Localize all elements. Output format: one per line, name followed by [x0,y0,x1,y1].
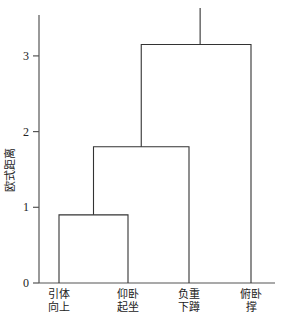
leaf-label: 起坐 [117,301,139,314]
y-tick-label: 3 [23,49,29,63]
y-tick-label: 0 [23,276,29,290]
y-axis-label: 欧式距离 [3,148,17,192]
leaf-label: 下蹲 [178,300,200,314]
y-ticks: 0123 [23,49,39,290]
dendrogram-link [59,215,128,283]
leaf-label: 俯卧 [240,287,262,301]
dendrogram-links [59,8,251,283]
leaf-label: 仰卧 [117,287,139,301]
dendrogram-link [141,45,251,283]
leaf-label: 撑 [246,300,257,314]
y-tick-label: 2 [23,125,29,139]
y-tick-label: 1 [23,200,29,214]
leaf-label: 负重 [178,287,200,301]
dendrogram-chart: 0123 引体向上仰卧起坐负重下蹲俯卧撑 欧式距离 [0,0,286,318]
leaf-labels: 引体向上仰卧起坐负重下蹲俯卧撑 [48,287,262,314]
leaf-label: 向上 [48,300,70,314]
leaf-label: 引体 [48,287,70,301]
